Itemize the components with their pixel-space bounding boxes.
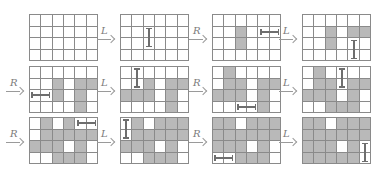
arrow-head-icon	[289, 138, 297, 146]
empty-cell	[247, 67, 258, 79]
shaded-cell	[314, 153, 325, 165]
grid-panel-5	[29, 66, 98, 113]
shaded-cell	[224, 67, 235, 79]
empty-cell	[247, 90, 258, 102]
transition-arrow-l: L	[97, 131, 117, 151]
empty-cell	[155, 102, 166, 114]
shaded-cell	[75, 141, 86, 153]
empty-cell	[303, 79, 314, 91]
shaded-cell	[155, 118, 166, 130]
grid	[302, 66, 371, 113]
empty-cell	[30, 27, 41, 39]
empty-cell	[87, 50, 98, 62]
arrow-label: R	[193, 128, 201, 139]
shaded-cell	[360, 79, 371, 91]
shaded-cell	[258, 79, 269, 91]
empty-cell	[258, 15, 269, 27]
empty-cell	[314, 27, 325, 39]
empty-cell	[53, 27, 64, 39]
shaded-cell	[75, 79, 86, 91]
empty-cell	[303, 102, 314, 114]
shaded-cell	[326, 90, 337, 102]
arrow-label: R	[193, 25, 201, 36]
shaded-cell	[178, 130, 189, 142]
empty-cell	[178, 38, 189, 50]
shaded-cell	[75, 153, 86, 165]
empty-cell	[178, 102, 189, 114]
shaded-cell	[166, 102, 177, 114]
empty-cell	[258, 50, 269, 62]
empty-cell	[258, 67, 269, 79]
vertical-domino-icon	[125, 119, 127, 139]
shaded-cell	[121, 90, 132, 102]
shaded-cell	[144, 90, 155, 102]
empty-cell	[326, 15, 337, 27]
empty-cell	[87, 15, 98, 27]
grid	[120, 66, 189, 113]
shaded-cell	[178, 79, 189, 91]
shaded-cell	[41, 130, 52, 142]
shaded-cell	[348, 153, 359, 165]
empty-cell	[41, 153, 52, 165]
grid-panel-11	[212, 117, 281, 164]
empty-cell	[64, 102, 75, 114]
shaded-cell	[166, 79, 177, 91]
arrow-head-icon	[16, 87, 24, 95]
empty-cell	[303, 27, 314, 39]
shaded-cell	[236, 90, 247, 102]
shaded-cell	[314, 79, 325, 91]
grid-panel-4	[302, 14, 371, 61]
shaded-cell	[166, 153, 177, 165]
shaded-cell	[155, 130, 166, 142]
shaded-cell	[337, 153, 348, 165]
empty-cell	[213, 50, 224, 62]
empty-cell	[178, 67, 189, 79]
arrow-label: L	[101, 77, 108, 88]
grid	[29, 66, 98, 113]
empty-cell	[64, 38, 75, 50]
shaded-cell	[132, 90, 143, 102]
arrow-head-icon	[199, 138, 207, 146]
shaded-cell	[337, 118, 348, 130]
empty-cell	[121, 102, 132, 114]
empty-cell	[224, 15, 235, 27]
shaded-cell	[224, 79, 235, 91]
empty-cell	[144, 118, 155, 130]
arrow-label: L	[101, 128, 108, 139]
shaded-cell	[326, 153, 337, 165]
empty-cell	[270, 50, 281, 62]
empty-cell	[314, 102, 325, 114]
shaded-cell	[166, 118, 177, 130]
empty-cell	[270, 153, 281, 165]
shaded-cell	[155, 153, 166, 165]
empty-cell	[53, 118, 64, 130]
arrow-label: L	[283, 25, 290, 36]
shaded-cell	[166, 90, 177, 102]
shaded-cell	[236, 153, 247, 165]
arrow-head-icon	[107, 87, 115, 95]
empty-cell	[132, 27, 143, 39]
shaded-cell	[303, 141, 314, 153]
empty-cell	[132, 102, 143, 114]
empty-cell	[155, 141, 166, 153]
empty-cell	[326, 67, 337, 79]
shaded-cell	[314, 141, 325, 153]
empty-cell	[166, 50, 177, 62]
shaded-cell	[314, 130, 325, 142]
grid-panel-9	[29, 117, 98, 164]
empty-cell	[53, 15, 64, 27]
empty-cell	[178, 90, 189, 102]
shaded-cell	[41, 141, 52, 153]
transition-arrow-r: R	[6, 80, 26, 100]
empty-cell	[144, 15, 155, 27]
empty-cell	[75, 27, 86, 39]
empty-cell	[64, 90, 75, 102]
empty-cell	[166, 27, 177, 39]
transition-arrow-r: R	[6, 131, 26, 151]
empty-cell	[213, 27, 224, 39]
shaded-cell	[144, 79, 155, 91]
empty-cell	[236, 15, 247, 27]
arrow-label: L	[283, 128, 290, 139]
empty-cell	[132, 38, 143, 50]
empty-cell	[144, 102, 155, 114]
